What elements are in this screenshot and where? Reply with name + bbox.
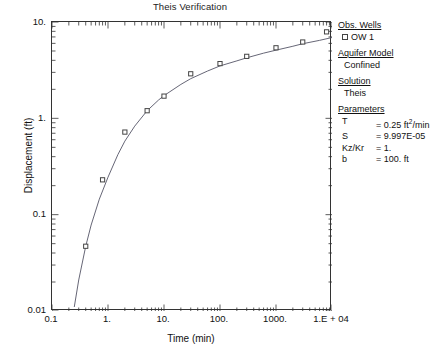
parameter-name-S: S [342,131,376,143]
parameter-row-b: b = 100. ft [338,154,439,166]
parameter-row-KzKr: Kz/Kr = 1. [338,143,439,155]
y-tick-label-10: 10. [2,16,46,27]
observed-data-markers [84,30,329,249]
open-square-marker-icon [342,34,348,40]
parameter-name-KzKr: Kz/Kr [342,143,376,155]
y-axis-title: Displacement (ft) [23,76,34,236]
data-point-marker [218,62,222,66]
legend-panel: Obs. Wells OW 1 Aquifer Model Confined S… [338,20,439,171]
legend-value-aquifer-model: Confined [338,60,439,72]
parameter-value-KzKr: = 1. [376,143,439,155]
legend-group-aquifer-model: Aquifer Model Confined [338,48,439,71]
x-tick-label-1: 1. [77,313,137,324]
legend-item-ow1: OW 1 [338,32,439,44]
data-point-marker [274,46,278,50]
x-tick-label-0p1: 0.1 [21,313,81,324]
parameter-value-b: = 100. ft [376,154,439,166]
x-tick-label-1000: 1000. [245,313,305,324]
x-tick-label-10: 10. [133,313,193,324]
data-point-marker [145,109,149,113]
legend-value-solution: Theis [338,88,439,100]
chart-page: Theis Verification 10. 1. 0.1 0.01 0.1 1… [0,0,439,357]
data-point-marker [162,94,166,98]
parameter-value-T: = 0.25 ft2/min [376,116,439,132]
legend-header-aquifer-model: Aquifer Model [338,48,439,60]
data-point-marker [245,54,249,58]
data-point-marker [189,72,193,76]
legend-group-solution: Solution Theis [338,76,439,99]
x-tick-label-100: 100. [189,313,249,324]
parameter-row-T: T = 0.25 ft2/min [338,116,439,132]
parameter-name-T: T [342,116,376,132]
plot-area [51,21,331,310]
legend-header-obs-wells: Obs. Wells [338,20,439,32]
data-point-marker [324,30,328,34]
legend-group-parameters: Parameters T = 0.25 ft2/min S = 9.997E-0… [338,104,439,166]
theis-type-curve [74,38,332,307]
legend-header-parameters: Parameters [338,104,439,116]
parameter-value-T-tail: /min [412,120,429,130]
legend-item-ow1-label: OW 1 [351,32,374,44]
data-point-marker [123,130,127,134]
parameter-row-S: S = 9.997E-05 [338,131,439,143]
chart-title: Theis Verification [0,1,380,12]
data-point-marker [100,178,104,182]
parameter-value-T-base: = 0.25 ft [376,120,409,130]
legend-group-obs-wells: Obs. Wells OW 1 [338,20,439,43]
x-axis-title: Time (min) [51,333,331,344]
data-point-marker [84,244,88,248]
parameter-value-S: = 9.997E-05 [376,131,439,143]
legend-header-solution: Solution [338,76,439,88]
data-point-marker [301,40,305,44]
parameter-name-b: b [342,154,376,166]
plot-canvas [52,22,332,311]
x-tick-label-1e04: 1.E + 04 [301,313,361,324]
